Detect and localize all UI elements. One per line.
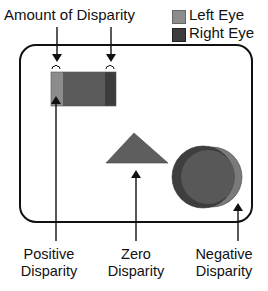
right-eye-rect-strip [105, 72, 116, 106]
zero-disparity-triangle [106, 133, 168, 163]
left-eye-swatch [172, 10, 186, 24]
legend-right-eye-label: Right Eye [189, 24, 254, 41]
legend-left-eye-label: Left Eye [189, 6, 244, 23]
brace-right-icon [106, 65, 114, 69]
negative-disparity-circles [172, 146, 242, 208]
overlap-rect [63, 72, 105, 106]
right-eye-swatch [172, 28, 186, 42]
positive-disparity-label: Positive Disparity [8, 246, 90, 280]
zero-disparity-label: Zero Disparity [95, 246, 177, 280]
overlap-circle [181, 150, 235, 204]
positive-disparity-rectangle [51, 72, 116, 106]
positive-arrow-icon [51, 96, 61, 241]
negative-disparity-label: Negative Disparity [182, 246, 266, 280]
brace-left-icon [52, 65, 60, 69]
zero-arrow-icon [131, 170, 141, 241]
amount-of-disparity-label: Amount of Disparity [4, 6, 135, 23]
